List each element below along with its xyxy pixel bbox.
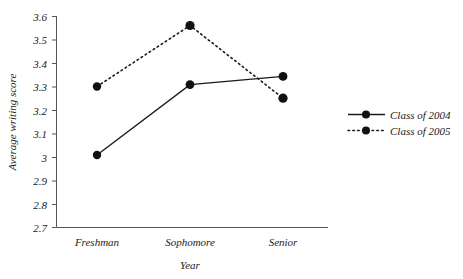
data-point bbox=[278, 94, 287, 103]
y-tick-label: 3.3 bbox=[32, 81, 47, 93]
data-point bbox=[186, 80, 195, 89]
chart-legend: Class of 2004 Class of 2005 bbox=[348, 109, 451, 137]
y-tick-label: 2.9 bbox=[33, 175, 47, 187]
y-tick-label: 3.6 bbox=[32, 11, 47, 23]
data-point bbox=[279, 72, 288, 81]
x-axis-tick-labels: Freshman Sophomore Senior bbox=[74, 236, 298, 248]
data-point bbox=[93, 82, 101, 90]
y-axis-tick-labels: 3.6 3.5 3.4 3.3 3.2 3.1 3 2.9 2.8 2.7 bbox=[32, 11, 47, 234]
x-axis-title: Year bbox=[180, 259, 200, 271]
x-tick-label: Freshman bbox=[74, 236, 120, 248]
series-class-of-2005 bbox=[93, 21, 288, 103]
data-point bbox=[93, 151, 101, 159]
y-tick-label: 2.7 bbox=[33, 222, 47, 234]
y-axis-title: Average writing score bbox=[6, 74, 18, 172]
line-chart: 3.6 3.5 3.4 3.3 3.2 3.1 3 2.9 2.8 2.7 Av… bbox=[0, 0, 463, 279]
y-tick-label: 3 bbox=[41, 152, 48, 164]
y-tick-label: 3.2 bbox=[32, 105, 47, 117]
legend-label: Class of 2004 bbox=[390, 109, 451, 121]
y-tick-label: 2.8 bbox=[33, 199, 47, 211]
chart-container: 3.6 3.5 3.4 3.3 3.2 3.1 3 2.9 2.8 2.7 Av… bbox=[0, 0, 463, 279]
legend-marker bbox=[362, 127, 370, 135]
legend-marker bbox=[362, 111, 370, 119]
legend-label: Class of 2005 bbox=[390, 125, 451, 137]
y-axis-ticks bbox=[52, 17, 57, 228]
x-tick-label: Sophomore bbox=[165, 236, 215, 248]
legend-item-class-of-2005: Class of 2005 bbox=[348, 125, 451, 137]
data-point bbox=[185, 21, 194, 30]
y-tick-label: 3.4 bbox=[32, 58, 47, 70]
legend-item-class-of-2004: Class of 2004 bbox=[348, 109, 451, 121]
series-class-of-2004 bbox=[93, 72, 288, 159]
x-tick-label: Senior bbox=[269, 236, 298, 248]
y-tick-label: 3.1 bbox=[32, 128, 47, 140]
y-tick-label: 3.5 bbox=[32, 34, 47, 46]
